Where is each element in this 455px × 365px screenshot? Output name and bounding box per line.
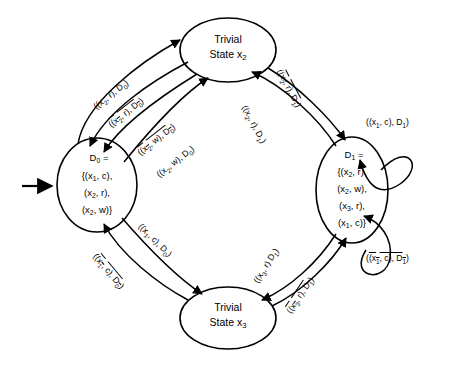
x3-line2: State x3 <box>210 316 247 330</box>
d1-line1: D1 = <box>345 149 364 161</box>
state-node-x2-label: Trivial State x2 <box>210 33 247 62</box>
d0-line3: (x2, r), <box>84 187 110 199</box>
diagram-canvas: Trivial State x2 Trivial State x3 D0 = {… <box>0 0 455 365</box>
state-node-d0-shape[interactable] <box>57 138 137 232</box>
d0-line2: {(x1, c), <box>82 170 113 182</box>
d0-line4: (x2, w)} <box>82 204 112 216</box>
d1-line5: (x1, c)} <box>338 217 366 229</box>
edge-label-d1-selfloop-top: ((x1, c), D1) <box>366 118 409 127</box>
state-node-d1-label: D1 = {(x2, r), (x2, w), (x3, r), (x1, c)… <box>337 149 367 229</box>
d1-line4: (x3, r), <box>339 200 365 212</box>
x2-line1: Trivial <box>214 33 242 45</box>
state-diagram-figure: Trivial State x2 Trivial State x3 D0 = {… <box>0 0 455 365</box>
edge-x3-to-d1-bar <box>272 238 346 306</box>
state-node-x3-label: Trivial State x3 <box>210 301 247 330</box>
state-node-d0-label: D0 = {(x1, c), (x2, r), (x2, w)} <box>82 152 113 216</box>
x3-line1: Trivial <box>214 301 242 313</box>
d1-line3: (x2, w), <box>337 183 367 195</box>
d0-line1: D0 = <box>90 152 109 164</box>
d1-line2: {(x2, r), <box>337 166 366 178</box>
edge-label-d1-selfloop-bottom-bar: ((x1, c), D1) <box>366 254 409 263</box>
x2-line2: State x2 <box>210 48 247 62</box>
